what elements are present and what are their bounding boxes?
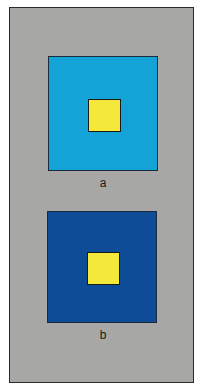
- label-a: a: [93, 176, 113, 190]
- gray-background-panel: a b: [9, 7, 194, 383]
- yellow-square-b: [87, 252, 120, 285]
- label-b: b: [93, 328, 113, 342]
- light-blue-square-a: [48, 56, 158, 171]
- dark-blue-square-b: [47, 211, 157, 323]
- yellow-square-a: [88, 99, 121, 132]
